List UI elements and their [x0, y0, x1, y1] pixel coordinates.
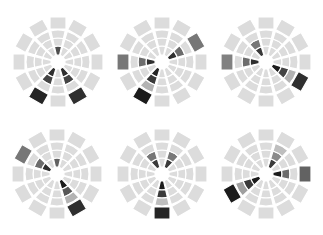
- glyph-cell: [49, 207, 65, 219]
- glyph-6: [221, 129, 311, 219]
- glyph-cell: [259, 85, 273, 94]
- glyph-4: [12, 129, 102, 219]
- glyph-cell: [51, 30, 65, 39]
- glyph-cell: [299, 54, 311, 70]
- glyph-cell: [258, 17, 274, 29]
- glyph-cell: [221, 166, 233, 182]
- glyph-cell: [138, 57, 146, 68]
- glyph-cell: [154, 95, 170, 107]
- glyph-cell: [130, 167, 139, 181]
- glyph-cell: [155, 142, 169, 151]
- glyph-cell: [90, 166, 102, 182]
- glyph-cell: [242, 169, 250, 180]
- glyph-cell: [259, 142, 273, 151]
- glyph-cell: [34, 57, 42, 68]
- glyph-cell: [154, 129, 170, 141]
- glyph-cell: [178, 57, 186, 68]
- glyph-cell: [12, 166, 24, 182]
- glyph-grid: [0, 0, 323, 235]
- glyph-3: [221, 17, 311, 107]
- glyph-cell: [185, 167, 194, 181]
- glyph-cell: [53, 78, 64, 86]
- glyph-cell: [258, 129, 274, 141]
- glyph-cell: [195, 54, 207, 70]
- glyph-cell: [130, 55, 139, 69]
- glyph-cell: [13, 54, 25, 70]
- glyph-cell: [178, 169, 186, 180]
- glyph-1: [13, 17, 103, 107]
- glyph-cell: [155, 197, 169, 206]
- glyph-cell: [261, 190, 272, 198]
- glyph-cell: [258, 95, 274, 107]
- glyph-cell: [52, 150, 63, 158]
- glyph-cell: [53, 38, 64, 46]
- glyph-cell: [80, 167, 89, 181]
- radial-glyph-chart: [0, 0, 323, 235]
- glyph-cell: [154, 207, 170, 219]
- glyph-cell: [138, 169, 146, 180]
- glyph-cell: [261, 150, 272, 158]
- glyph-cell: [221, 54, 233, 70]
- glyph-cell: [33, 169, 41, 180]
- glyph-cell: [51, 85, 65, 94]
- glyph-cell: [289, 167, 298, 181]
- glyph-cell: [117, 166, 129, 182]
- glyph-cell: [157, 78, 168, 86]
- glyph-cell: [25, 167, 34, 181]
- glyph-cell: [195, 166, 207, 182]
- glyph-cell: [155, 85, 169, 94]
- glyph-cell: [261, 38, 272, 46]
- glyph-cell: [50, 17, 66, 29]
- glyph-cell: [26, 55, 35, 69]
- glyph-cell: [50, 197, 64, 206]
- glyph-2: [117, 17, 207, 107]
- glyph-cell: [117, 54, 129, 70]
- glyph-cell: [259, 30, 273, 39]
- glyph-cell: [282, 169, 290, 180]
- glyph-cell: [155, 30, 169, 39]
- glyph-cell: [258, 207, 274, 219]
- glyph-cell: [50, 142, 64, 151]
- glyph-cell: [73, 169, 81, 180]
- glyph-cell: [289, 55, 298, 69]
- glyph-cell: [50, 95, 66, 107]
- glyph-cell: [234, 167, 243, 181]
- glyph-cell: [91, 54, 103, 70]
- glyph-cell: [81, 55, 90, 69]
- glyph-5: [117, 129, 207, 219]
- glyph-cell: [74, 57, 82, 68]
- glyph-cell: [234, 55, 243, 69]
- glyph-cell: [157, 190, 168, 198]
- glyph-cell: [299, 166, 311, 182]
- glyph-cell: [282, 57, 290, 68]
- glyph-cell: [157, 150, 168, 158]
- glyph-cell: [185, 55, 194, 69]
- glyph-cell: [52, 190, 63, 198]
- glyph-cell: [259, 197, 273, 206]
- glyph-cell: [49, 129, 65, 141]
- glyph-cell: [157, 38, 168, 46]
- glyph-cell: [261, 78, 272, 86]
- glyph-cell: [154, 17, 170, 29]
- glyph-cell: [242, 57, 250, 68]
